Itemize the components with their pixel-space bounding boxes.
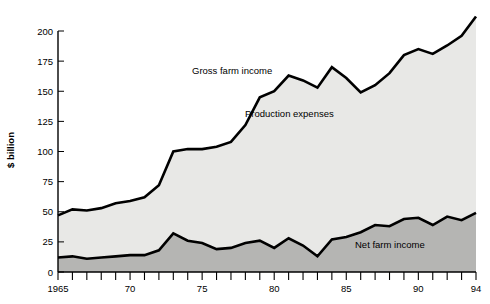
x-tick-label: 94 (471, 283, 482, 294)
x-tick-label: 85 (341, 283, 352, 294)
plot-area (58, 17, 476, 272)
farm-income-chart: 0255075100125150175200 1965707580859094 … (0, 0, 490, 304)
y-axis-title: $ billion (5, 132, 16, 168)
gross-farm-income-label: Gross farm income (192, 65, 272, 76)
y-tick-label: 100 (37, 146, 53, 157)
y-tick-label: 50 (42, 206, 53, 217)
y-axis-tick-labels: 0255075100125150175200 (37, 26, 53, 278)
y-tick-label: 25 (42, 236, 53, 247)
x-axis-ticks (58, 272, 476, 280)
x-axis-tick-labels: 1965707580859094 (47, 283, 481, 294)
x-tick-label: 90 (413, 283, 424, 294)
y-tick-label: 125 (37, 116, 53, 127)
y-tick-label: 200 (37, 26, 53, 37)
chart-canvas: 0255075100125150175200 1965707580859094 … (0, 0, 490, 304)
y-tick-label: 0 (48, 267, 53, 278)
y-tick-label: 75 (42, 176, 53, 187)
x-tick-label: 1965 (47, 283, 68, 294)
production-expenses-label: Production expenses (245, 108, 334, 119)
y-tick-label: 150 (37, 86, 53, 97)
y-tick-label: 175 (37, 56, 53, 67)
x-tick-label: 70 (125, 283, 136, 294)
x-tick-label: 75 (197, 283, 208, 294)
net-farm-income-label: Net farm income (355, 239, 425, 250)
x-tick-label: 80 (269, 283, 280, 294)
